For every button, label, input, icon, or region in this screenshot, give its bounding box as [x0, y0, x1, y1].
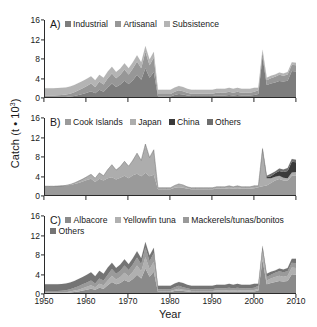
y-tick-mark — [41, 39, 45, 40]
legend-item[interactable]: China — [169, 117, 200, 128]
y-tick-label: 4 — [18, 270, 40, 279]
x-tick-label: 1950 — [35, 297, 54, 306]
x-tick-label: 2010 — [287, 297, 306, 306]
legend-item-label: Cook Islands — [73, 117, 123, 128]
x-tick-mark — [127, 98, 128, 102]
y-tick-label: 12 — [18, 231, 40, 240]
legend-row: B)Cook IslandsJapanChinaOthers — [50, 117, 296, 128]
y-tick-mark — [41, 235, 45, 236]
x-tick-mark — [295, 98, 296, 102]
legend-item-label: Japan — [138, 117, 161, 128]
y-tick-mark — [41, 78, 45, 79]
legend-swatch-icon — [115, 21, 121, 27]
x-tick-label: 2000 — [245, 297, 264, 306]
y-axis-title-exponent: 3 — [9, 102, 16, 106]
y-tick-mark — [41, 274, 45, 275]
panel-a: A)IndustrialArtisanalSubsistence 0481216 — [44, 20, 296, 98]
legend-item[interactable]: Others — [207, 117, 241, 128]
legend-item[interactable]: Others — [50, 226, 84, 237]
x-tick-mark — [295, 196, 296, 200]
panel-a-legend: A)IndustrialArtisanalSubsistence — [50, 19, 296, 30]
x-tick-label: 1980 — [161, 297, 180, 306]
y-tick-label: 16 — [18, 114, 40, 123]
y-tick-label: 0 — [18, 94, 40, 103]
x-tick-mark — [43, 98, 44, 102]
legend-swatch-icon — [169, 119, 175, 125]
x-tick-mark — [127, 196, 128, 200]
legend-item[interactable]: Mackerels/tunas/bonitos — [183, 215, 284, 226]
x-tick-mark — [253, 196, 254, 200]
legend-row: A)IndustrialArtisanalSubsistence — [50, 19, 296, 30]
x-tick-mark — [211, 196, 212, 200]
legend-row: Others — [50, 226, 296, 237]
panel-letter-label: C) — [50, 215, 61, 226]
legend-item-label: Industrial — [73, 19, 108, 30]
legend-swatch-icon — [65, 21, 71, 27]
legend-item-label: China — [177, 117, 199, 128]
legend-item-label: Others — [59, 226, 85, 237]
panel-b-legend: B)Cook IslandsJapanChinaOthers — [50, 117, 296, 128]
legend-swatch-icon — [65, 119, 71, 125]
y-tick-label: 8 — [18, 55, 40, 64]
legend-item[interactable]: Subsistence — [164, 19, 219, 30]
panel-a-plot-area — [44, 20, 296, 98]
x-tick-label: 1990 — [203, 297, 222, 306]
y-tick-mark — [41, 215, 45, 216]
legend-item-label: Others — [215, 117, 241, 128]
y-tick-mark — [41, 58, 45, 59]
legend-swatch-icon — [207, 119, 213, 125]
panel-c-legend: C)AlbacoreYellowfin tunaMackerels/tunas/… — [50, 215, 296, 237]
panel-c: C)AlbacoreYellowfin tunaMackerels/tunas/… — [44, 216, 296, 294]
legend-item-label: Albacore — [74, 215, 108, 226]
y-tick-mark — [41, 137, 45, 138]
x-tick-mark — [85, 98, 86, 102]
x-tick-label: 1960 — [77, 297, 96, 306]
y-tick-label: 4 — [18, 172, 40, 181]
panel-b: B)Cook IslandsJapanChinaOthers 0481216 — [44, 118, 296, 196]
legend-item[interactable]: Yellowfin tuna — [115, 215, 176, 226]
panel-b-plot-area — [44, 118, 296, 196]
legend-item-label: Subsistence — [172, 19, 219, 30]
legend-swatch-icon — [50, 228, 56, 234]
y-tick-mark — [41, 254, 45, 255]
y-tick-label: 12 — [18, 133, 40, 142]
x-axis-title: Year — [44, 308, 296, 320]
x-tick-mark — [211, 98, 212, 102]
y-tick-label: 16 — [18, 16, 40, 25]
legend-item[interactable]: Artisanal — [115, 19, 157, 30]
legend-item[interactable]: Cook Islands — [65, 117, 123, 128]
figure-container: Catch (t • 103) A)IndustrialArtisanalSub… — [0, 0, 317, 327]
legend-swatch-icon — [115, 217, 121, 223]
legend-swatch-icon — [183, 217, 189, 223]
legend-item-label: Artisanal — [123, 19, 156, 30]
y-tick-label: 0 — [18, 192, 40, 201]
y-tick-mark — [41, 19, 45, 20]
legend-item[interactable]: Japan — [130, 117, 162, 128]
legend-item[interactable]: Albacore — [65, 215, 107, 226]
legend-item-label: Mackerels/tunas/bonitos — [191, 215, 284, 226]
legend-swatch-icon — [164, 21, 170, 27]
y-tick-label: 4 — [18, 74, 40, 83]
y-tick-mark — [41, 176, 45, 177]
y-tick-mark — [41, 117, 45, 118]
y-tick-label: 8 — [18, 153, 40, 162]
y-tick-label: 12 — [18, 35, 40, 44]
panel-letter-label: A) — [50, 19, 61, 30]
x-tick-mark — [85, 196, 86, 200]
legend-swatch-icon — [130, 119, 136, 125]
x-tick-mark — [43, 196, 44, 200]
panel-letter-label: B) — [50, 117, 61, 128]
legend-swatch-icon — [65, 217, 71, 223]
x-tick-mark — [169, 196, 170, 200]
y-tick-mark — [41, 156, 45, 157]
y-tick-label: 8 — [18, 251, 40, 260]
x-tick-mark — [169, 98, 170, 102]
legend-item-label: Yellowfin tuna — [123, 215, 176, 226]
legend-item[interactable]: Industrial — [65, 19, 108, 30]
legend-row: C)AlbacoreYellowfin tunaMackerels/tunas/… — [50, 215, 296, 226]
x-tick-mark — [253, 98, 254, 102]
x-tick-label: 1970 — [119, 297, 138, 306]
y-tick-label: 16 — [18, 212, 40, 221]
